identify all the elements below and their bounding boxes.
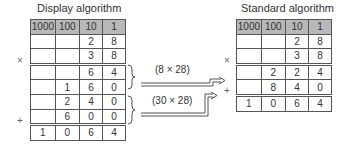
brace-icon bbox=[128, 65, 135, 89]
brace-icon bbox=[128, 96, 135, 124]
arrow-icon bbox=[141, 77, 225, 86]
arrow-icon bbox=[141, 92, 217, 116]
braces-and-arrows bbox=[0, 0, 347, 157]
